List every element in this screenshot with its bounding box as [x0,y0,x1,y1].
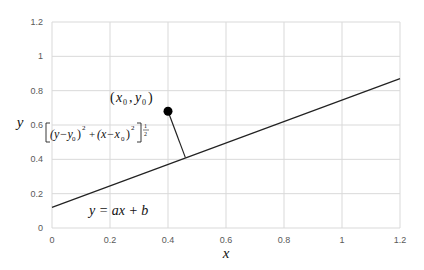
svg-text:,: , [129,90,133,105]
y-axis-ticks: 00.20.40.60.811.2 [30,17,43,233]
data-point [164,107,173,116]
svg-text:0: 0 [142,98,146,107]
svg-text:x: x [115,90,123,105]
y-tick-label: 0.8 [30,86,43,96]
x-tick-label: 0.2 [104,235,117,245]
grid [52,22,400,228]
svg-text:y: y [133,90,142,105]
svg-text:): ) [148,90,153,106]
svg-text:(x−x: (x−x [97,127,120,141]
svg-text:2: 2 [131,124,135,132]
svg-text:(y−y: (y−y [50,127,73,141]
line-equation: y = ax + b [87,203,148,218]
svg-text:): ) [126,127,130,141]
y-tick-label: 0.6 [30,120,43,130]
svg-text:(: ( [110,90,115,106]
svg-text:2: 2 [82,124,86,132]
x-tick-label: 0.6 [220,235,233,245]
distance-formula: (y−y 0 ) 2 + (x−x 0 ) 2 1 2 [46,123,149,143]
svg-text:+: + [89,128,95,140]
svg-text:0: 0 [123,98,127,107]
point-label: ( x 0 , y 0 ) [110,90,153,107]
chart: 00.20.40.60.811.2 00.20.40.60.811.2 x y … [0,0,424,270]
y-tick-label: 0.2 [30,189,43,199]
x-tick-label: 0.8 [278,235,291,245]
svg-text:0: 0 [72,135,76,143]
x-axis-label: x [222,245,230,261]
y-tick-label: 0 [38,223,43,233]
y-tick-label: 1.2 [30,17,43,27]
x-axis-ticks: 00.20.40.60.811.2 [49,235,406,245]
svg-text:1: 1 [144,123,147,129]
y-tick-label: 1 [38,51,43,61]
y-axis-label: y [15,114,24,130]
x-tick-label: 0.4 [162,235,175,245]
y-tick-label: 0.4 [30,154,43,164]
x-tick-label: 1.2 [394,235,407,245]
x-tick-label: 1 [339,235,344,245]
svg-text:0: 0 [121,135,125,143]
svg-text:2: 2 [144,131,147,137]
x-tick-label: 0 [49,235,54,245]
svg-text:): ) [77,127,81,141]
distance-segment [168,111,185,157]
